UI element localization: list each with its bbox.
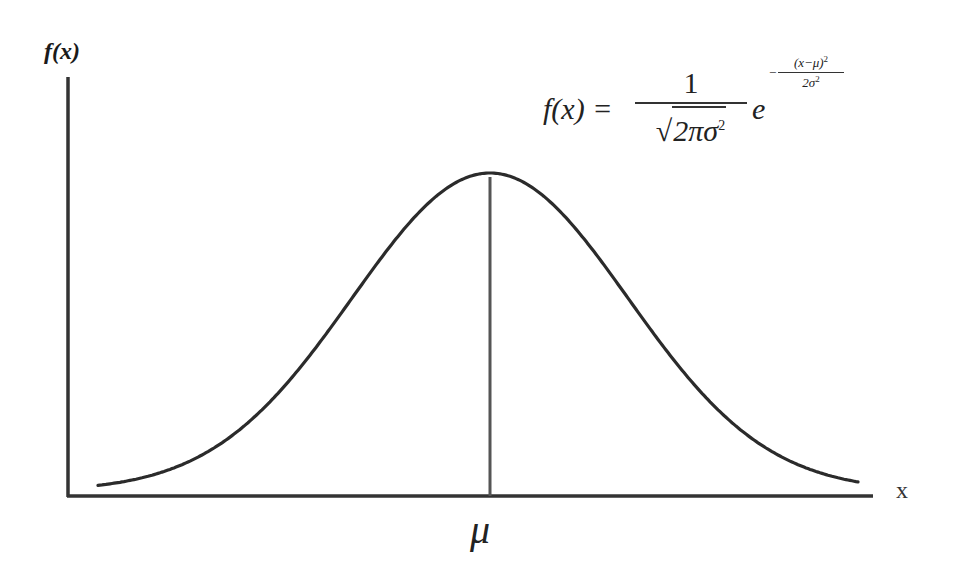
formula-denominator: √2πσ2 — [635, 106, 747, 149]
formula-lhs: f(x) = — [543, 92, 612, 126]
formula-base-e: e — [752, 92, 765, 126]
exponent-denominator-power: 2 — [815, 74, 820, 84]
exponent-fraction-bar — [778, 72, 844, 73]
exponent-denominator: 2σ — [802, 76, 815, 91]
denominator-radicand: 2πσ — [673, 114, 718, 147]
denominator-power: 2 — [718, 118, 725, 133]
exponent-numerator-power: 2 — [824, 54, 829, 64]
y-axis-label: f(x) — [44, 38, 80, 65]
exponent-numerator: (x−μ) — [794, 55, 824, 70]
fraction-bar — [635, 102, 747, 104]
x-axis-label: x — [896, 477, 908, 504]
exponent-sign: − — [769, 65, 776, 81]
formula-numerator: 1 — [635, 66, 747, 100]
exponent-fraction: (x−μ)2 2σ2 — [778, 54, 844, 92]
formula-lhs-text: f(x) = — [543, 92, 612, 125]
gaussian-curve — [98, 173, 858, 485]
formula-fraction: 1 √2πσ2 — [635, 66, 747, 149]
mean-label: μ — [470, 506, 490, 553]
